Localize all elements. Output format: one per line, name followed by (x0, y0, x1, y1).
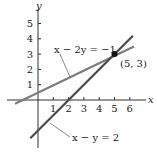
x-tick-label: 2 (65, 103, 71, 114)
y-tick-label: 4 (27, 33, 33, 44)
y-tick-label: 1 (27, 79, 33, 90)
intersection-label: (5, 3) (120, 58, 147, 69)
system-of-equations-graph: 1 2 3 4 5 6 1 2 3 4 5 x y (5, 3) x − 2y … (0, 0, 157, 153)
y-axis-label: y (35, 0, 42, 11)
x-tick-label: 4 (96, 103, 102, 114)
leader-line-1 (60, 54, 70, 77)
equation-label-2: x − y = 2 (72, 132, 119, 143)
y-tick-label: 2 (27, 64, 33, 75)
x-axis-label: x (148, 94, 154, 105)
x-tick-label: 6 (127, 103, 133, 114)
graph-canvas: 1 2 3 4 5 6 1 2 3 4 5 x y (5, 3) x − 2y … (0, 0, 157, 153)
equation-label-1: x − 2y = −1 (54, 44, 116, 55)
leader-line-2 (50, 123, 70, 137)
y-tick-label: 5 (27, 18, 33, 29)
x-tick-label: 5 (111, 103, 117, 114)
x-tick-label: 3 (81, 103, 87, 114)
y-tick-label: 3 (27, 49, 33, 60)
